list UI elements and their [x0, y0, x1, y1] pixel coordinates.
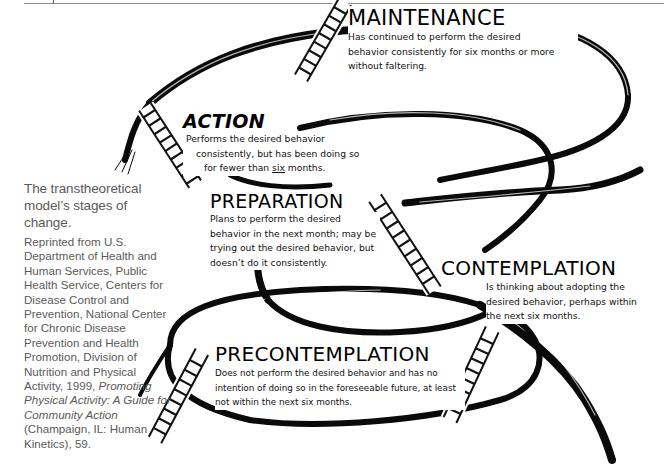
caption-credit: Reprinted from U.S. Department of Health… [24, 235, 174, 451]
stage-name: ACTION [183, 110, 267, 132]
credit-publisher: (Champaign, IL: Human Kinetics), 59. [24, 422, 147, 449]
stage-description: Has continued to perform the desired beh… [348, 30, 563, 74]
stage-description: Is thinking about adopting the desired b… [486, 280, 651, 324]
desc-end: months. [285, 162, 325, 173]
ladder-icon-maintenance [292, 0, 353, 83]
desc-underlined: six [272, 162, 285, 173]
stage-name: PRECONTEMPLATION [215, 343, 434, 366]
stage-action: ACTION Performs the desired behavior con… [183, 110, 393, 176]
caption-title: The transtheoretical model’s stages of c… [24, 180, 174, 231]
desc-line-1: Performs the desired behavior [183, 132, 393, 147]
stage-description: Plans to perform the desired behavior in… [210, 212, 380, 270]
stage-description: Does not perform the desired behavior an… [215, 366, 465, 410]
stage-name: CONTEMPLATION [441, 256, 616, 280]
stage-contemplation: CONTEMPLATION Is thinking about adopting… [441, 256, 656, 324]
desc-text: for fewer than [204, 162, 272, 173]
figure-caption: The transtheoretical model’s stages of c… [24, 180, 174, 451]
credit-text: Reprinted from U.S. Department of Health… [24, 235, 166, 392]
desc-line-3: for fewer than six months. [183, 161, 393, 176]
stage-name: MAINTENANCE [348, 6, 578, 30]
stage-maintenance: MAINTENANCE Has continued to perform the… [348, 6, 578, 74]
stage-description: Performs the desired behavior consistent… [183, 132, 393, 176]
stage-name: PREPARATION [210, 190, 344, 212]
stage-preparation: PREPARATION Plans to perform the desired… [210, 190, 380, 270]
desc-line-2: consistently, but has been doing so [183, 147, 393, 162]
stage-precontemplation: PRECONTEMPLATION Does not perform the de… [215, 343, 465, 410]
